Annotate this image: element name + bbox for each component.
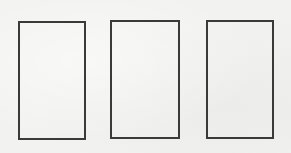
empty-box-1[interactable] <box>18 21 86 140</box>
drawing-canvas <box>0 0 291 153</box>
empty-box-2[interactable] <box>110 20 180 139</box>
empty-box-3[interactable] <box>206 20 274 139</box>
